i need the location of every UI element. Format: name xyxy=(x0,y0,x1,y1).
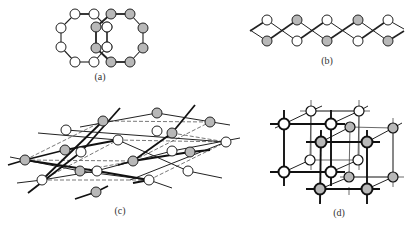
atom-white xyxy=(102,22,112,32)
ring-gray-atoms xyxy=(91,9,148,67)
panel-b-zigzag-chains xyxy=(250,15,404,46)
panel-a-label: (a) xyxy=(94,71,105,83)
ring-white-bonds xyxy=(61,14,107,62)
layer-thick-bonds xyxy=(8,105,210,199)
panel-d-label: (d) xyxy=(333,207,345,219)
ring-white-atoms xyxy=(56,9,112,67)
panel-c-interpenetrating-layers xyxy=(8,105,240,199)
atom-white xyxy=(102,42,112,52)
panel-c-label: (c) xyxy=(114,205,125,217)
figure-canvas: (a) xyxy=(0,0,414,225)
ring-gray-bonds xyxy=(96,14,143,62)
panel-d-interpenetrating-cubic-nets xyxy=(270,100,404,204)
panel-b-label: (b) xyxy=(321,55,333,67)
cube-depth-edges xyxy=(275,106,402,189)
panel-a-interlocked-rings xyxy=(56,9,148,67)
